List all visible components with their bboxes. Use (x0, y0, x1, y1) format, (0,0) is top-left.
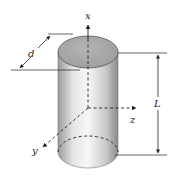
length-dimension: L (115, 53, 167, 155)
x-axis-label: x (85, 10, 91, 21)
z-axis-label: z (129, 114, 136, 125)
y-axis-label: y (31, 145, 38, 156)
length-label: L (153, 98, 161, 109)
cylinder-diagram: x z y d L (0, 0, 174, 177)
diameter-label: d (28, 48, 34, 59)
